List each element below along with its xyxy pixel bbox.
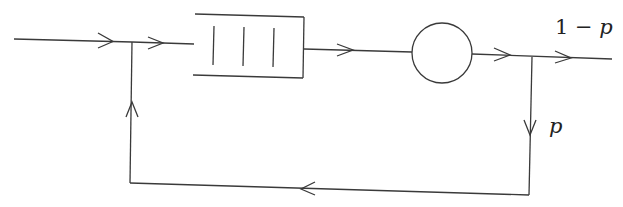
feedback-rise-edge [126, 42, 138, 183]
arrowhead-icon [126, 102, 138, 117]
merge-to-queue-edge [132, 37, 194, 49]
server-to-output-edge [472, 48, 612, 63]
queue-feedback-diagram: 1 − p p [0, 0, 623, 207]
queue-slot [273, 28, 274, 67]
queue-buffer [193, 14, 304, 78]
exit-probability-label: 1 − p [555, 15, 613, 39]
queue-slot [243, 27, 244, 66]
feedback-drop-edge [524, 57, 536, 195]
feedback-return-edge [130, 182, 529, 195]
feedback-probability-label: p [549, 114, 562, 138]
arrowhead-icon [98, 33, 113, 48]
queue-to-server-edge [304, 44, 412, 56]
input-edge [14, 33, 132, 48]
queue-slot [213, 26, 214, 65]
server-circle [412, 23, 472, 83]
